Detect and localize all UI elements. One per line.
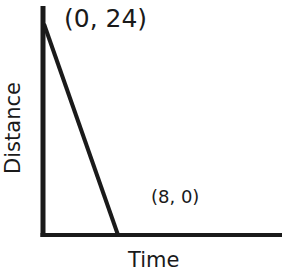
x-axis-label: Time xyxy=(128,250,179,271)
y-axis-label: Distance xyxy=(3,82,24,174)
point-label-start: (0, 24) xyxy=(64,6,147,31)
chart-canvas xyxy=(0,0,288,272)
point-label-end: (8, 0) xyxy=(151,188,199,206)
data-line xyxy=(44,24,118,235)
